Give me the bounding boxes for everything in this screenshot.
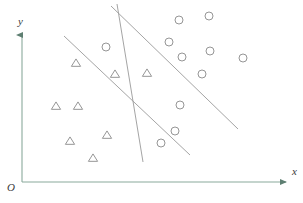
data-point-triangle (142, 69, 151, 76)
data-point-circle (175, 16, 183, 24)
data-point-circle (176, 101, 184, 109)
data-point-triangle (65, 137, 74, 144)
data-point-circle (239, 54, 247, 62)
data-point-circle (102, 43, 110, 51)
data-point-triangle (88, 154, 97, 161)
data-point-circle (165, 38, 173, 46)
data-point-circle (157, 139, 165, 147)
separating-line-upper-diagonal (111, 6, 238, 129)
data-markers (51, 12, 247, 161)
data-point-triangle (51, 102, 60, 109)
data-point-triangle (71, 59, 80, 66)
data-point-triangle (102, 131, 111, 138)
separating-line-lower-diagonal (64, 36, 190, 155)
data-point-circle (198, 70, 206, 78)
data-point-circle (206, 47, 214, 55)
y-axis-label: y (18, 16, 23, 27)
separating-lines (64, 4, 238, 162)
data-point-triangle (110, 70, 119, 77)
separating-line-steep-line (117, 4, 143, 162)
scatter-plot-figure: y x O (0, 0, 303, 203)
plot-canvas (0, 0, 303, 203)
axes (22, 35, 286, 182)
data-point-circle (171, 127, 179, 135)
origin-label: O (7, 182, 15, 193)
data-point-circle (178, 53, 186, 61)
data-point-circle (205, 12, 213, 20)
data-point-triangle (73, 102, 82, 109)
x-axis-label: x (292, 166, 297, 177)
